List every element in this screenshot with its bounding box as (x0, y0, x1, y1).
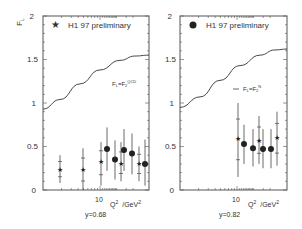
dot-marker-icon (129, 150, 135, 156)
dot-marker-icon (260, 146, 266, 152)
chart-canvas: 2 1.5 1 0.5 0 2 1.5 1 0.5 0 FL ★ H1 97 p… (0, 0, 302, 229)
right-qcd-curve (180, 49, 287, 107)
dot-data-point (241, 125, 247, 164)
star-marker-icon: ★ (80, 166, 86, 173)
right-legend-label: H1 97 preliminary (206, 21, 269, 30)
star-data-point: ★ (98, 142, 104, 186)
left-xtick-10: 10 (95, 196, 103, 203)
y-axis-label: FL (15, 18, 25, 26)
star-data-point: ★ (274, 112, 280, 166)
star-data-point: ★ (80, 148, 86, 190)
star-marker-icon: ★ (98, 158, 104, 165)
right-ytick-0.5: 0.5 (165, 142, 177, 151)
star-data-point: ★ (256, 116, 262, 164)
dot-marker-icon (250, 145, 256, 151)
left-ytick-1.5: 1.5 (27, 55, 39, 64)
left-legend-label: H1 97 preliminary (68, 21, 131, 30)
axis-ticks (43, 16, 287, 190)
dot-data-point (250, 129, 256, 166)
right-y-value: y=0.82 (219, 211, 240, 219)
star-data-point: ★ (235, 103, 241, 177)
star-marker-icon: ★ (256, 137, 262, 144)
dot-marker-icon (112, 157, 118, 163)
dot-data-point (104, 127, 110, 171)
right-ytick-0: 0 (170, 186, 175, 195)
star-marker-icon: ★ (118, 160, 124, 167)
right-ytick-1.5: 1.5 (165, 55, 177, 64)
dot-marker-icon (121, 147, 127, 153)
left-ytick-1: 1 (32, 99, 37, 108)
dot-data-point (112, 140, 118, 179)
legend-dot-icon (190, 22, 197, 29)
star-marker-icon: ★ (136, 160, 142, 167)
star-marker-icon: ★ (235, 135, 241, 142)
right-curve-label: FL=F2N (243, 84, 261, 93)
right-xtick-10: 10 (232, 196, 240, 203)
left-ytick-0.5: 0.5 (27, 142, 39, 151)
left-panel-frame (43, 16, 149, 190)
left-ytick-0: 0 (32, 186, 37, 195)
dot-data-point (129, 133, 135, 174)
left-ytick-2: 2 (30, 12, 35, 21)
right-xlabel: Q2/GeV2 (248, 199, 279, 209)
right-ytick-2: 2 (168, 12, 173, 21)
star-data-point: ★ (136, 147, 142, 182)
dot-data-point (260, 129, 266, 168)
svg-text:FL: FL (15, 18, 25, 26)
left-y-value: y=0.68 (85, 211, 106, 219)
star-marker-icon: ★ (57, 166, 63, 173)
left-xlabel: Q2/GeV2 (110, 199, 141, 209)
dot-marker-icon (142, 161, 148, 167)
right-ytick-1: 1 (170, 99, 175, 108)
star-data-point: ★ (57, 155, 63, 183)
dot-marker-icon (268, 146, 274, 152)
legend-star-icon: ★ (51, 19, 60, 30)
plot-layer: ★★★★★★★★ (43, 49, 287, 190)
dot-marker-icon (104, 146, 110, 152)
star-marker-icon: ★ (274, 134, 280, 141)
left-curve-label: FL=F2QCD (112, 79, 136, 88)
dot-marker-icon (241, 141, 247, 147)
